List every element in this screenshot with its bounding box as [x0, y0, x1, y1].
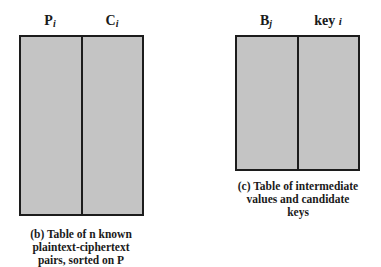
caption-line: keys — [222, 206, 374, 219]
column-label: P — [44, 13, 53, 28]
table-b-header-p: Pi — [19, 13, 81, 29]
column-subscript: i — [339, 15, 342, 27]
table-b-column-divider — [81, 37, 83, 214]
caption-line: (c) Table of intermediate — [222, 180, 374, 193]
table-c-column-divider — [297, 37, 299, 169]
caption-line: (b) Table of n known — [6, 228, 156, 241]
table-c-caption: (c) Table of intermediate values and can… — [222, 180, 374, 219]
table-b-header-c: Ci — [81, 13, 143, 29]
caption-line: pairs, sorted on P — [6, 254, 156, 267]
table-c — [235, 35, 360, 171]
table-b-caption: (b) Table of n known plaintext-ciphertex… — [6, 228, 156, 267]
table-c-header-key: key i — [297, 13, 359, 29]
caption-line: plaintext-ciphertext — [6, 241, 156, 254]
column-subscript: i — [53, 18, 56, 29]
column-label: C — [106, 13, 116, 28]
table-b — [19, 35, 144, 216]
table-c-header-b: Bj — [235, 13, 297, 29]
column-label: key — [314, 13, 335, 28]
caption-line: values and candidate — [222, 193, 374, 206]
column-label: B — [260, 13, 269, 28]
column-subscript: i — [116, 18, 119, 29]
column-subscript: j — [269, 18, 272, 29]
